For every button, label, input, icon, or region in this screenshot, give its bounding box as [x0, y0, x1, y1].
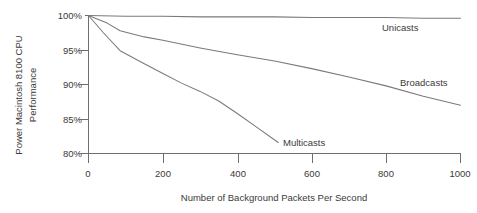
line-chart-canvas: Power Macintosh 8100 CPU Performance 100… [0, 0, 477, 213]
y-axis-title-group: Power Macintosh 8100 CPU Performance [13, 35, 38, 154]
x-tick-label-400: 400 [230, 168, 246, 179]
chart-figure: Power Macintosh 8100 CPU Performance 100… [0, 0, 477, 213]
x-axis-tick-marks [89, 153, 461, 163]
x-tick-label-800: 800 [378, 168, 394, 179]
series-annotations: Unicasts Broadcasts Multicasts [283, 22, 448, 148]
series-label-unicasts: Unicasts [382, 22, 419, 33]
series-label-multicasts: Multicasts [283, 137, 325, 148]
y-axis-tick-marks [78, 16, 88, 154]
x-tick-label-600: 600 [304, 168, 320, 179]
series-line-unicasts [89, 16, 461, 19]
x-axis-tick-labels: 0 200 400 600 800 1000 [85, 168, 470, 179]
y-axis-title-line2: Performance [27, 68, 38, 122]
x-axis-title: Number of Background Packets Per Second [181, 192, 367, 203]
series-label-broadcasts: Broadcasts [400, 77, 448, 88]
y-tick-label-100: 100% [58, 10, 83, 21]
x-tick-label-200: 200 [155, 168, 171, 179]
x-tick-label-1000: 1000 [449, 168, 470, 179]
x-tick-label-0: 0 [85, 168, 90, 179]
y-axis-title-line1: Power Macintosh 8100 CPU [13, 35, 24, 154]
series-line-multicasts [89, 16, 279, 143]
